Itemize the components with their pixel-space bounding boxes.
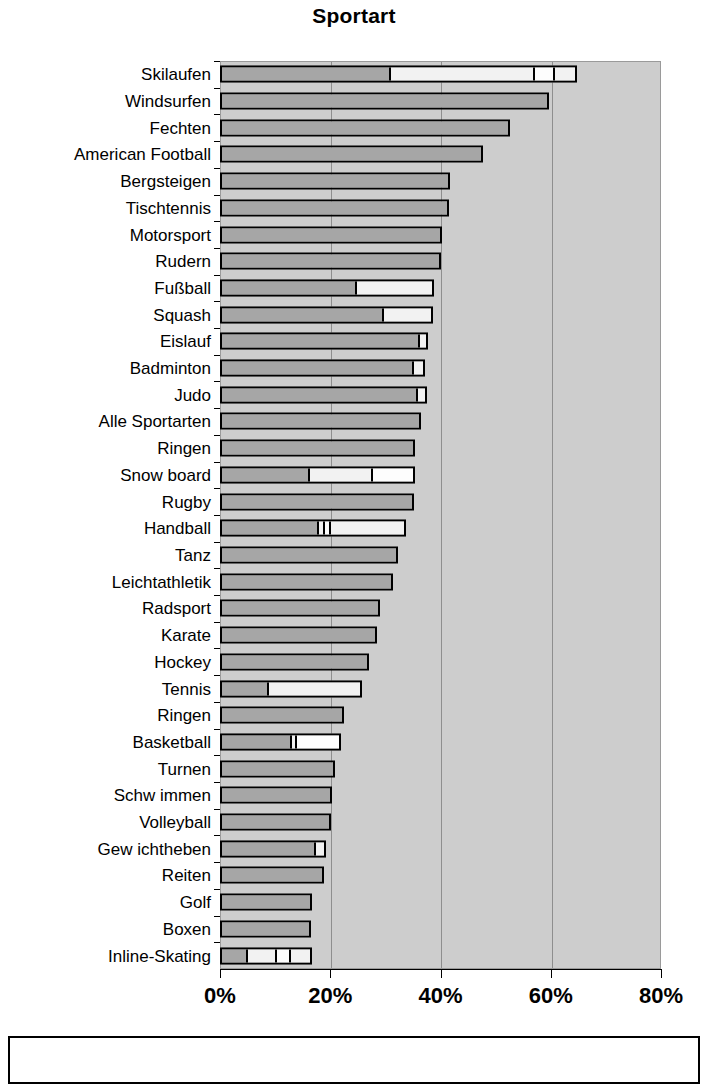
bar-segment [248, 949, 277, 962]
bar-segment [222, 709, 342, 722]
category-label: Windsurfen [125, 93, 211, 110]
bar [220, 920, 311, 937]
bar-row: American Football [220, 141, 661, 168]
y-axis-tick [214, 942, 220, 943]
bar [220, 146, 483, 163]
bar-row: Tischtennis [220, 195, 661, 222]
y-axis-tick [214, 275, 220, 276]
bar-segment [291, 949, 310, 962]
bar-segment [222, 922, 309, 935]
category-label: Gew ichtheben [98, 840, 211, 857]
y-axis-tick [214, 301, 220, 302]
y-axis-tick [214, 595, 220, 596]
bar-segment [222, 549, 396, 562]
bar [220, 306, 433, 323]
category-label: Volleyball [139, 814, 211, 831]
bar-segment [222, 869, 322, 882]
bar-segment [222, 655, 367, 668]
bar-segment [222, 415, 419, 428]
bar-row: Judo [220, 381, 661, 408]
y-axis-tick [214, 702, 220, 703]
category-label: Ringen [157, 707, 211, 724]
bar-segment [222, 442, 413, 455]
x-axis-label: 40% [418, 983, 462, 1009]
bar-segment [222, 95, 547, 108]
bar-row: Turnen [220, 755, 661, 782]
bar-row: Boxen [220, 916, 661, 943]
bar-row: Bergsteigen [220, 168, 661, 195]
bar-segment [222, 255, 439, 268]
y-axis-tick [214, 729, 220, 730]
bar-segment [222, 148, 481, 161]
bar-segment [222, 949, 248, 962]
y-axis-tick [214, 622, 220, 623]
y-axis-tick [214, 782, 220, 783]
category-label: Inline-Skating [108, 947, 211, 964]
bar [220, 680, 362, 697]
y-axis-tick [214, 515, 220, 516]
bar-segment [222, 281, 357, 294]
bar-row: Tanz [220, 542, 661, 569]
bar [220, 253, 441, 270]
y-axis-tick [214, 88, 220, 89]
bar-segment [222, 789, 330, 802]
category-label: Turnen [158, 760, 211, 777]
bar-row: Leichtathletik [220, 568, 661, 595]
bar [220, 226, 442, 243]
category-label: Tanz [175, 547, 211, 564]
bar-segment [222, 228, 440, 241]
bar-row: Eislauf [220, 328, 661, 355]
x-axis-label: 20% [308, 983, 352, 1009]
bar [220, 760, 335, 777]
category-label: Karate [161, 627, 211, 644]
bar [220, 627, 377, 644]
bar-segment [222, 682, 269, 695]
category-label: Reiten [162, 867, 211, 884]
bar [220, 814, 331, 831]
category-label: Radsport [142, 600, 211, 617]
bar-rows: SkilaufenWindsurfenFechtenAmerican Footb… [220, 61, 661, 969]
bar-segment [222, 335, 420, 348]
category-label: American Football [74, 146, 211, 163]
bar-segment [222, 735, 292, 748]
bar-segment [222, 362, 414, 375]
bar-segment [222, 896, 310, 909]
y-axis-tick [214, 809, 220, 810]
y-axis-tick [214, 248, 220, 249]
y-axis-tick [214, 435, 220, 436]
y-axis-tick [214, 648, 220, 649]
category-label: Badminton [130, 360, 211, 377]
bar [220, 360, 425, 377]
bar [220, 466, 415, 483]
bar [220, 867, 324, 884]
x-axis-tick [441, 969, 442, 978]
bar-segment [420, 335, 426, 348]
y-axis-tick [214, 141, 220, 142]
bar-segment [222, 121, 508, 134]
bar-segment [222, 308, 384, 321]
y-axis-tick [214, 916, 220, 917]
bar [220, 840, 326, 857]
bar [220, 493, 414, 510]
bar-segment [222, 388, 418, 401]
bar-row: Ringen [220, 435, 661, 462]
x-axis-label: 60% [529, 983, 573, 1009]
category-label: Leichtathletik [112, 573, 211, 590]
bar-row: Squash [220, 301, 661, 328]
bar-segment [222, 816, 329, 829]
y-axis-tick [214, 355, 220, 356]
bar-segment [222, 629, 375, 642]
bar [220, 279, 434, 296]
bar-row: Fußball [220, 275, 661, 302]
bar-row: Gew ichtheben [220, 835, 661, 862]
bar-row: Motorsport [220, 221, 661, 248]
bar-row: Basketball [220, 729, 661, 756]
bar [220, 573, 393, 590]
bar-row: Skilaufen [220, 61, 661, 88]
y-axis-tick [214, 221, 220, 222]
category-label: Eislauf [160, 333, 211, 350]
x-axis-label: 80% [639, 983, 683, 1009]
category-label: Rudern [155, 253, 211, 270]
category-label: Skilaufen [141, 66, 211, 83]
bar-row: Alle Sportarten [220, 408, 661, 435]
